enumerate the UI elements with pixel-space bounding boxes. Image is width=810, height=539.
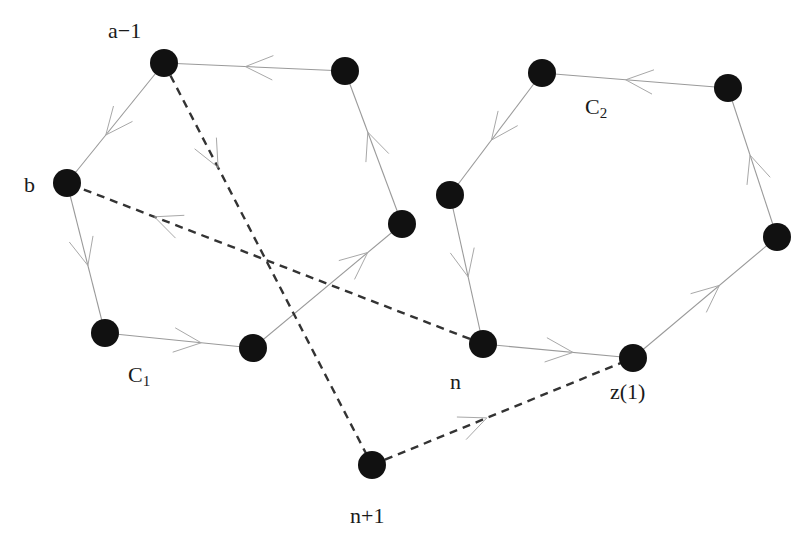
cycle-edge-c2_right-to-c2_top_right — [728, 88, 777, 237]
dashed-edge-n-to-b — [67, 183, 483, 344]
arrows-layer — [69, 56, 770, 440]
dashed-edge-a_minus_1-to-n_plus_1 — [164, 63, 372, 465]
node-c1_bottom — [239, 334, 267, 362]
cycle-exchange-diagram — [0, 0, 810, 539]
node-c1_right — [388, 210, 416, 238]
node-n — [469, 330, 497, 358]
cycle-label-c2: C2 — [585, 96, 607, 121]
dashed-edge-n_plus_1-to-z1 — [372, 358, 633, 465]
cycle-edge-a_minus_1-to-b — [67, 63, 164, 183]
cycle-edge-c2_top_left-to-c2_left — [450, 73, 542, 195]
node-z1 — [619, 344, 647, 372]
cycle-edge-z1-to-c2_right — [633, 237, 777, 358]
node-label-b: b — [24, 174, 35, 196]
cycle-edge-b-to-c1_bottom_left — [67, 183, 105, 333]
node-label-n: n — [450, 371, 461, 393]
cycle-label-c1: C1 — [128, 364, 150, 389]
cycle-edge-c1_bottom_left-to-c1_bottom — [105, 333, 253, 348]
node-label-n-plus-1: n+1 — [350, 505, 384, 527]
cycle-edge-n-to-z1 — [483, 344, 633, 358]
node-c2_right — [763, 223, 791, 251]
node-label-a-minus-1: a−1 — [108, 20, 141, 42]
cycle-edge-c1_right-to-c1_top_right — [345, 71, 402, 224]
node-c2_top_right — [714, 74, 742, 102]
cycle-edge-c2_top_right-to-c2_top_left — [542, 73, 728, 88]
node-c2_top_left — [528, 59, 556, 87]
nodes-layer — [53, 49, 791, 479]
cycle-edge-c1_top_right-to-a_minus_1 — [164, 63, 345, 71]
node-c2_left — [436, 181, 464, 209]
edges-layer — [67, 63, 777, 465]
node-c1_top_right — [331, 57, 359, 85]
cycle-edge-c2_left-to-n — [450, 195, 483, 344]
node-n_plus_1 — [358, 451, 386, 479]
node-label-z1: z(1) — [610, 381, 645, 403]
node-a_minus_1 — [150, 49, 178, 77]
cycle-edge-c1_bottom-to-c1_right — [253, 224, 402, 348]
node-b — [53, 169, 81, 197]
node-c1_bottom_left — [91, 319, 119, 347]
